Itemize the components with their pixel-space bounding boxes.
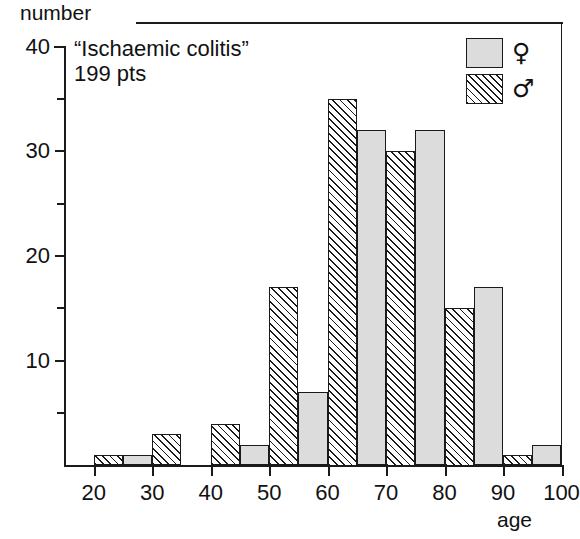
y-tick-minor-15 [57, 307, 65, 309]
female-symbol-icon: ♀ [512, 37, 530, 68]
y-tick-10 [55, 360, 65, 362]
x-tick-label-100: 100 [543, 481, 580, 505]
legend-swatch-female-icon [466, 38, 503, 68]
y-tick-label-40: 40 [4, 36, 50, 58]
y-tick-minor-35 [57, 98, 65, 100]
chart-title: “Ischaemic colitis” [74, 36, 249, 62]
x-tick-90 [503, 465, 505, 476]
y-tick-20 [55, 255, 65, 257]
x-tick-100 [562, 465, 564, 476]
y-axis-title: number [20, 2, 91, 23]
bar-female-55-60 [298, 392, 327, 465]
y-tick-minor-25 [57, 203, 65, 205]
y-tick-label-30: 30 [4, 140, 50, 162]
x-tick-40 [211, 465, 213, 476]
bar-male-80-85 [445, 308, 474, 465]
bar-male-30-35 [152, 434, 181, 465]
male-symbol-icon: ♂ [512, 73, 534, 104]
bar-male-20-25 [94, 455, 123, 465]
x-tick-60 [328, 465, 330, 476]
x-tick-label-70: 70 [374, 481, 398, 505]
chart-subtitle: 199 pts [74, 61, 146, 87]
legend-swatch-male-icon [466, 74, 503, 104]
plot-frame-top [136, 22, 563, 24]
x-tick-30 [152, 465, 154, 476]
x-tick-label-90: 90 [491, 481, 515, 505]
y-tick-label-10: 10 [4, 350, 50, 372]
bar-male-40-45 [211, 424, 240, 466]
bar-female-25-30 [123, 455, 152, 465]
y-tick-30 [55, 150, 65, 152]
bar-female-45-50 [240, 445, 269, 466]
x-tick-label-60: 60 [315, 481, 339, 505]
x-tick-50 [269, 465, 271, 476]
bar-female-85-90 [474, 287, 503, 465]
x-tick-label-20: 20 [81, 481, 105, 505]
plot-frame-right [561, 22, 562, 467]
bar-male-60-65 [328, 99, 357, 466]
x-axis-title: age [497, 509, 532, 530]
x-tick-70 [386, 465, 388, 476]
bar-female-75-80 [415, 130, 444, 465]
x-tick-label-30: 30 [140, 481, 164, 505]
y-tick-label-20: 20 [4, 245, 50, 267]
x-tick-20 [94, 465, 96, 476]
bar-male-90-95 [503, 455, 532, 465]
x-tick-label-80: 80 [432, 481, 456, 505]
y-tick-40 [55, 46, 65, 48]
bar-female-65-70 [357, 130, 386, 465]
bar-male-70-75 [386, 151, 415, 465]
x-tick-80 [445, 465, 447, 476]
x-tick-label-40: 40 [198, 481, 222, 505]
bar-male-50-55 [269, 287, 298, 465]
bar-female-95-100 [532, 445, 561, 466]
x-tick-label-50: 50 [257, 481, 281, 505]
y-tick-minor-5 [57, 412, 65, 414]
